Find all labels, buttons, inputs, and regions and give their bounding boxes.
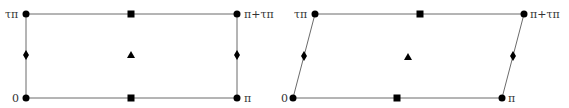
diamond-marker-icon — [510, 51, 516, 61]
lattice-diagram: 0 π τπ π+τπ 0 π τπ π+τπ — [0, 0, 569, 108]
corner-dot-icon — [234, 11, 241, 18]
corner-label-origin: 0 — [281, 92, 288, 105]
corner-dot-icon — [23, 95, 30, 102]
rectangle-figure: 0 π τπ π+τπ — [5, 8, 274, 105]
corner-dot-icon — [521, 11, 528, 18]
triangle-marker-icon — [127, 51, 135, 58]
corner-label-tau-pi: τπ — [294, 8, 307, 21]
square-marker-icon — [128, 95, 135, 102]
corner-dot-icon — [234, 95, 241, 102]
diamond-marker-icon — [301, 51, 307, 61]
square-marker-icon — [417, 11, 424, 18]
corner-label-pi: π — [244, 92, 251, 105]
corner-label-tau-pi: τπ — [5, 8, 18, 21]
corner-dot-icon — [23, 11, 30, 18]
diamond-marker-icon — [234, 50, 240, 60]
corner-dot-icon — [290, 95, 297, 102]
diamond-marker-icon — [23, 50, 29, 60]
parallelogram-figure: 0 π τπ π+τπ — [281, 8, 560, 105]
square-marker-icon — [394, 95, 401, 102]
corner-label-origin: 0 — [12, 92, 19, 105]
corner-label-pi-plus-tau-pi: π+τπ — [244, 8, 274, 21]
triangle-marker-icon — [404, 53, 412, 60]
corner-dot-icon — [312, 11, 319, 18]
square-marker-icon — [128, 11, 135, 18]
corner-label-pi: π — [508, 92, 515, 105]
corner-dot-icon — [499, 95, 506, 102]
corner-label-pi-plus-tau-pi: π+τπ — [530, 8, 560, 21]
